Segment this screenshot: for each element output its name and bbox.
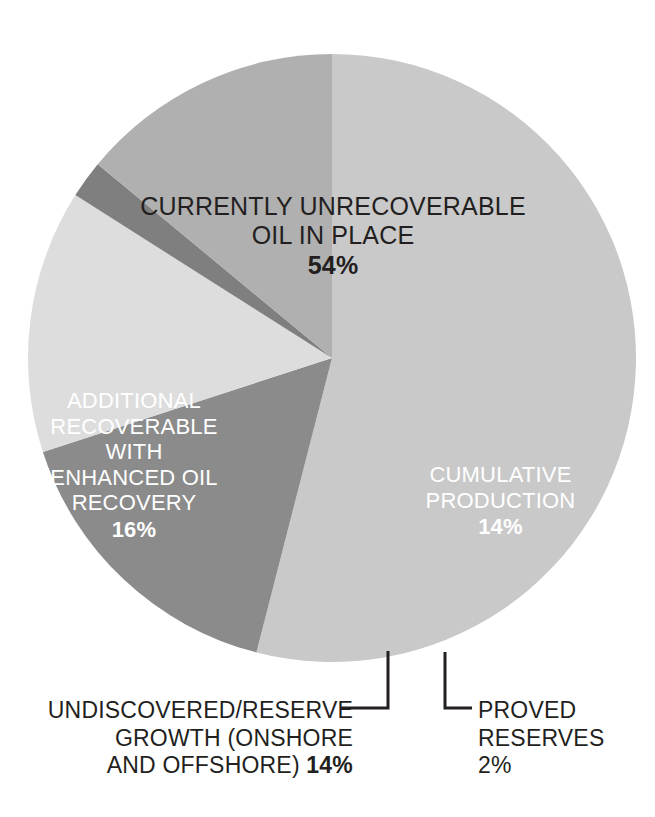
slice-label-currently-unrecoverable-oil-in-place: CURRENTLY UNRECOVERABLE OIL IN PLACE 54% xyxy=(123,192,543,280)
slice-label-undiscovered-reserve-growth: UNDISCOVERED/RESERVE GROWTH (ONSHORE AND… xyxy=(8,697,353,780)
slice-label-text: AND OFFSHORE) xyxy=(107,752,307,778)
slice-percent: 2% xyxy=(478,752,648,780)
slice-label-proved-reserves: PROVED RESERVES 2% xyxy=(478,697,648,780)
slice-percent: 16% xyxy=(28,517,240,543)
pie-chart: CURRENTLY UNRECOVERABLE OIL IN PLACE 54%… xyxy=(0,0,655,817)
slice-label-line: ENHANCED OIL xyxy=(28,465,240,491)
slice-label-line-with-percent: AND OFFSHORE) 14% xyxy=(8,752,353,780)
slice-label-line: RECOVERABLE xyxy=(28,414,240,440)
slice-label-line: RESERVES xyxy=(478,725,648,753)
slice-label-line: RECOVERY xyxy=(28,490,240,516)
slice-label-line: GROWTH (ONSHORE xyxy=(8,725,353,753)
slice-label-line: PROVED xyxy=(478,697,648,725)
slice-label-line: OIL IN PLACE xyxy=(123,221,543,250)
leader-line-proved-reserves xyxy=(445,652,472,708)
slice-label-line: WITH xyxy=(28,439,240,465)
slice-label-cumulative-production: CUMULATIVE PRODUCTION 14% xyxy=(398,462,603,540)
slice-percent: 14% xyxy=(398,514,603,540)
slice-label-line: PRODUCTION xyxy=(398,488,603,514)
slice-label-line: CUMULATIVE xyxy=(398,462,603,488)
slice-percent: 54% xyxy=(123,251,543,280)
slice-percent: 14% xyxy=(306,752,353,778)
slice-label-line: UNDISCOVERED/RESERVE xyxy=(8,697,353,725)
slice-label-additional-recoverable-enhanced-oil-recovery: ADDITIONAL RECOVERABLE WITH ENHANCED OIL… xyxy=(28,388,240,542)
slice-label-line: CURRENTLY UNRECOVERABLE xyxy=(123,192,543,221)
slice-label-line: ADDITIONAL xyxy=(28,388,240,414)
